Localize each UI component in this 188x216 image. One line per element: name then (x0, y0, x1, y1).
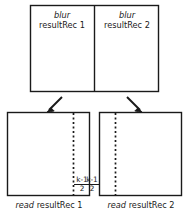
bottom-right-buffer: resultRec 2 (129, 200, 175, 210)
top-cell-2-label: blur resultRec 2 (95, 11, 159, 30)
top-cell-1-buffer: resultRec 1 (30, 21, 94, 31)
bottom-right-operation: read (107, 200, 126, 210)
bottom-left-caption: read resultRec 1 (7, 200, 91, 210)
bottom-right-rectangle-outline (100, 113, 182, 196)
diagram-canvas: blur resultRec 1 blur resultRec 2 k-1 2 … (0, 0, 188, 216)
bottom-right-margin-fraction: k-1 2 (84, 176, 100, 193)
bottom-left-buffer: resultRec 1 (37, 200, 83, 210)
bottom-right-caption: read resultRec 2 (99, 200, 183, 210)
bottom-right-fraction-denominator: 2 (84, 185, 100, 193)
top-cell-2-buffer: resultRec 2 (95, 21, 159, 31)
bottom-left-operation: read (15, 200, 34, 210)
top-cell-1-label: blur resultRec 1 (30, 11, 94, 30)
arrow-left-icon (47, 97, 63, 113)
arrow-right-icon (127, 97, 143, 113)
